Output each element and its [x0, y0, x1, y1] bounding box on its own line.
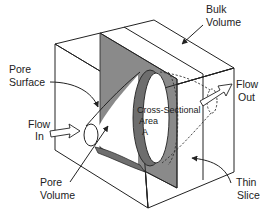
- label-volume: Volume: [206, 16, 241, 28]
- flow-out-arrow: [200, 84, 232, 106]
- label-cross-sectional: Cross-Sectional: [137, 105, 201, 115]
- label-pore-volume-2: Volume: [40, 189, 75, 201]
- label-area-symbol: A: [142, 127, 148, 137]
- label-flow-out-2: Out: [238, 91, 255, 103]
- pore-inlet: [84, 124, 98, 146]
- pore-surface-leader: [50, 82, 98, 107]
- label-flow-in-1: Flow: [28, 118, 51, 130]
- label-area: Area: [139, 116, 158, 126]
- label-pore-volume-1: Pore: [40, 176, 62, 188]
- label-pore-surface-1: Pore: [9, 63, 31, 75]
- label-flow-in-2: In: [35, 130, 44, 142]
- bulk-volume-leader: [182, 25, 203, 44]
- thin-slice-leader: [192, 158, 231, 183]
- label-thin-slice-2: Slice: [237, 189, 260, 201]
- label-bulk: Bulk: [206, 3, 227, 15]
- label-thin-slice-1: Thin: [236, 176, 257, 188]
- label-pore-surface-2: Surface: [9, 76, 45, 88]
- label-flow-out-1: Flow: [236, 78, 259, 90]
- porous-medium-diagram: Bulk Volume Pore Surface Flow In Flow Ou…: [0, 0, 269, 215]
